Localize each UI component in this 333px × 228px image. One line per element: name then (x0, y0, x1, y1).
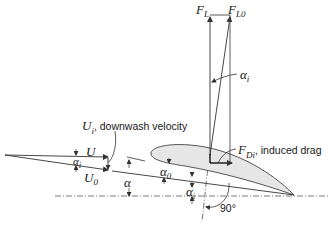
alpha-0-label: α0 (160, 165, 171, 181)
lift-label: FL (196, 3, 209, 19)
alpha-i-left-label: αi (73, 156, 81, 170)
induced-drag-diagram: FL FL0 αi Ui, downwash velocity FDi, ind… (0, 0, 333, 228)
right-angle-label: 90° (220, 203, 236, 214)
alpha-label: α (124, 176, 131, 189)
lift-zero-vector (210, 17, 230, 155)
u-label: U (86, 145, 95, 158)
zero-lift-line (127, 157, 145, 161)
u0-label: U0 (84, 171, 98, 187)
diagram-canvas (0, 0, 333, 228)
downwash-label: Ui, downwash velocity (82, 117, 187, 136)
lift-zero-label: FL0 (228, 3, 245, 19)
alpha-i-top-leader (212, 74, 237, 82)
induced-drag-label: FDi, induced drag (238, 141, 322, 160)
alpha-i-top-label: αi (240, 68, 249, 84)
alpha-i-bottom-label: αi (186, 185, 195, 201)
